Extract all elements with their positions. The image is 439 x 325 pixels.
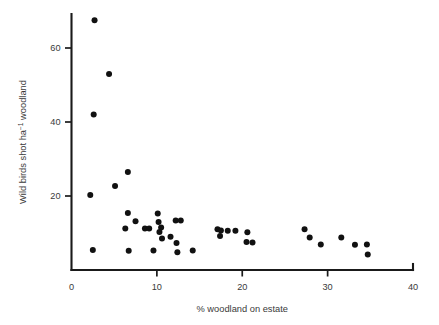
data-point (87, 192, 93, 198)
data-point (168, 234, 174, 240)
x-tick-label: 10 (152, 282, 162, 292)
data-point (244, 229, 250, 235)
data-point (92, 17, 98, 23)
data-point (90, 247, 96, 253)
data-points-group (87, 17, 370, 257)
x-axis-ticks: 010203040 (69, 264, 418, 292)
y-axis-title-label: Wild birds shot ha−1 woodland (17, 80, 28, 204)
data-point (133, 218, 139, 224)
data-point (106, 71, 112, 77)
data-point (91, 112, 97, 118)
data-point (250, 240, 256, 246)
data-point (125, 169, 131, 175)
x-axis-title: % woodland on estate (197, 304, 289, 314)
data-point (173, 217, 179, 223)
data-point (174, 240, 180, 246)
data-point (217, 233, 223, 239)
data-point (365, 251, 371, 257)
data-point (146, 226, 152, 232)
data-point (338, 234, 344, 240)
data-point (232, 228, 238, 234)
data-point (225, 228, 231, 234)
data-point (218, 227, 224, 233)
data-point (307, 234, 313, 240)
scatter-plot-figure: 204060 010203040 % woodland on estate Wi… (0, 0, 439, 325)
y-tick-label: 20 (50, 191, 60, 201)
y-tick-label: 40 (50, 117, 60, 127)
y-axis-title: Wild birds shot ha−1 woodland (17, 80, 28, 204)
data-point (122, 226, 128, 232)
x-tick-label: 0 (69, 282, 74, 292)
data-point (174, 249, 180, 255)
data-point (150, 247, 156, 253)
data-point (126, 248, 132, 254)
data-point (352, 242, 358, 248)
y-axis-ticks: 204060 (50, 43, 71, 201)
x-tick-label: 30 (323, 282, 333, 292)
data-point (156, 219, 162, 225)
x-tick-label: 40 (408, 282, 418, 292)
x-tick-label: 20 (237, 282, 247, 292)
data-point (302, 226, 308, 232)
data-point (156, 229, 162, 235)
y-tick-label: 60 (50, 43, 60, 53)
data-point (244, 239, 250, 245)
data-point (190, 247, 196, 253)
data-point (112, 183, 118, 189)
data-point (364, 241, 370, 247)
data-point (318, 241, 324, 247)
data-point (159, 236, 165, 242)
data-point (155, 210, 161, 216)
data-point (178, 217, 184, 223)
data-point (125, 210, 131, 216)
chart-canvas: 204060 010203040 % woodland on estate Wi… (0, 0, 439, 325)
